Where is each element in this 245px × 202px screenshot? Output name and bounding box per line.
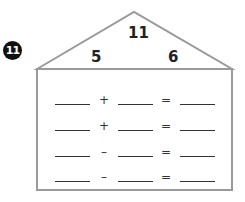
- answer-blank[interactable]: [118, 130, 153, 131]
- answer-blank[interactable]: [55, 104, 90, 105]
- equation-row-4: – =: [55, 169, 217, 185]
- answer-blank[interactable]: [55, 130, 90, 131]
- equals-sign: =: [160, 118, 172, 134]
- minus-sign: –: [98, 169, 110, 185]
- answer-blank[interactable]: [118, 104, 153, 105]
- answer-blank[interactable]: [118, 181, 153, 182]
- answer-blank[interactable]: [180, 104, 215, 105]
- equation-row-1: + =: [55, 92, 217, 108]
- roof-total: 11: [128, 26, 149, 41]
- roof-left-addend: 5: [91, 50, 101, 65]
- plus-sign: +: [98, 92, 110, 108]
- equation-row-3: – =: [55, 144, 217, 160]
- equals-sign: =: [160, 169, 172, 185]
- answer-blank[interactable]: [180, 181, 215, 182]
- answer-blank[interactable]: [180, 130, 215, 131]
- equals-sign: =: [160, 92, 172, 108]
- equals-sign: =: [160, 144, 172, 160]
- problem-number-badge: 11: [3, 41, 22, 60]
- roof-right-addend: 6: [168, 50, 178, 65]
- answer-blank[interactable]: [55, 156, 90, 157]
- answer-blank[interactable]: [55, 181, 90, 182]
- answer-blank[interactable]: [118, 156, 153, 157]
- answer-blank[interactable]: [180, 156, 215, 157]
- minus-sign: –: [98, 144, 110, 160]
- equation-row-2: + =: [55, 118, 217, 134]
- plus-sign: +: [98, 118, 110, 134]
